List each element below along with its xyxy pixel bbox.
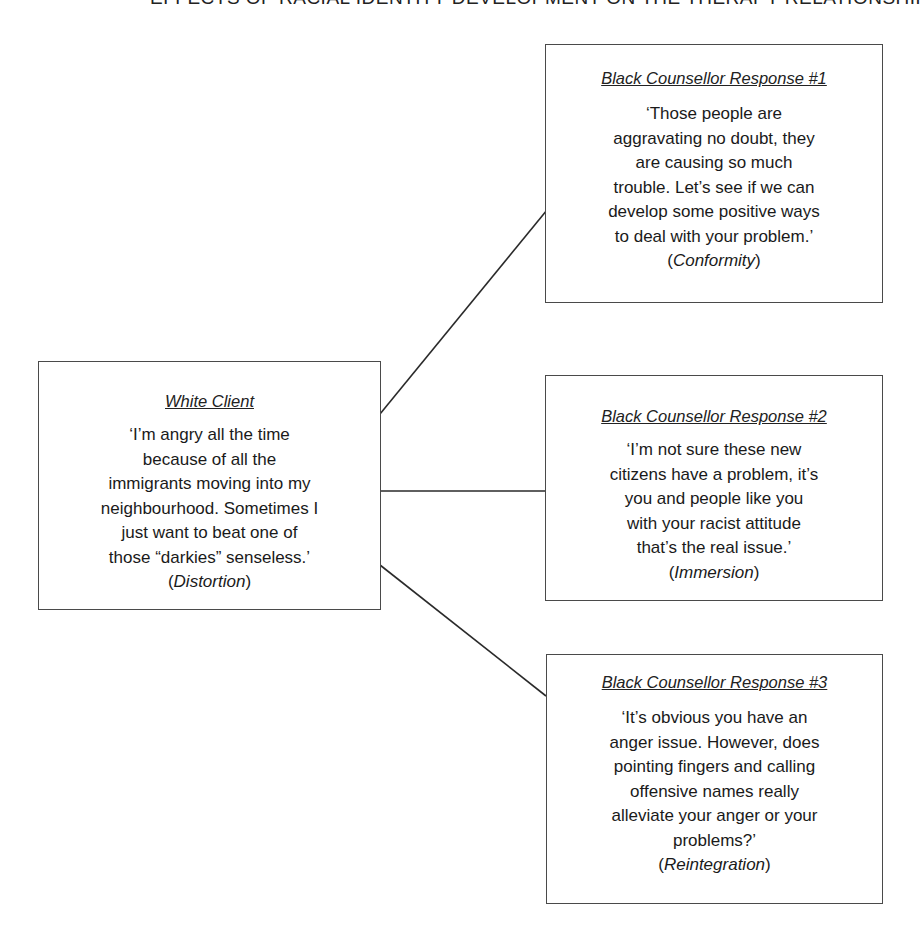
response-box-2: Black Counsellor Response #2 ‘I’m not su… [545, 375, 883, 601]
stage-label: Conformity [673, 251, 755, 270]
response-quote-line: problems?’ [569, 829, 860, 854]
connector-client-to-response-3 [380, 565, 546, 696]
close-paren: ) [754, 563, 760, 582]
response-quote-line: pointing fingers and calling [569, 755, 860, 780]
response-quote-line: trouble. Let’s see if we can [568, 176, 860, 201]
client-title: White Client [63, 391, 356, 411]
response-stage: (Conformity) [568, 249, 860, 274]
response-quote-line: that’s the real issue.’ [568, 536, 860, 561]
response-quote-line: citizens have a problem, it’s [568, 463, 860, 488]
client-quote-line: immigrants moving into my [63, 472, 356, 497]
connector-client-to-response-1 [380, 210, 547, 414]
response-title: Black Counsellor Response #3 [569, 672, 860, 692]
response-quote-line: to deal with your problem.’ [568, 225, 860, 250]
client-quote-line: because of all the [63, 448, 356, 473]
response-quote-line: alleviate your anger or your [569, 804, 860, 829]
client-quote-line: those “darkies” senseless.’ [63, 546, 356, 571]
response-quote-line: with your racist attitude [568, 512, 860, 537]
client-stage: (Distortion) [63, 570, 356, 595]
response-quote-line: you and people like you [568, 487, 860, 512]
client-box: White Client ‘I’m angry all the time bec… [38, 361, 381, 610]
close-paren: ) [245, 572, 251, 591]
response-stage: (Immersion) [568, 561, 860, 586]
client-quote-line: neighbourhood. Sometimes I [63, 497, 356, 522]
response-stage: (Reintegration) [569, 853, 860, 878]
response-quote-line: anger issue. However, does [569, 731, 860, 756]
response-title: Black Counsellor Response #2 [568, 406, 860, 426]
response-quote-line: are causing so much [568, 151, 860, 176]
response-quote-line: ‘I’m not sure these new [568, 438, 860, 463]
response-box-3: Black Counsellor Response #3 ‘It’s obvio… [546, 654, 883, 904]
stage-label: Distortion [174, 572, 246, 591]
page-heading: EFFECTS OF RACIAL IDENTITY DEVELOPMENT O… [150, 0, 920, 9]
stage-label: Reintegration [664, 855, 765, 874]
client-quote-line: ‘I’m angry all the time [63, 423, 356, 448]
stage-label: Immersion [674, 563, 753, 582]
response-quote-line: aggravating no doubt, they [568, 127, 860, 152]
response-quote-line: ‘Those people are [568, 102, 860, 127]
response-quote-line: ‘It’s obvious you have an [569, 706, 860, 731]
response-quote-line: offensive names really [569, 780, 860, 805]
client-quote-line: just want to beat one of [63, 521, 356, 546]
close-paren: ) [765, 855, 771, 874]
response-box-1: Black Counsellor Response #1 ‘Those peop… [545, 44, 883, 303]
response-quote-line: develop some positive ways [568, 200, 860, 225]
close-paren: ) [755, 251, 761, 270]
response-title: Black Counsellor Response #1 [568, 68, 860, 88]
